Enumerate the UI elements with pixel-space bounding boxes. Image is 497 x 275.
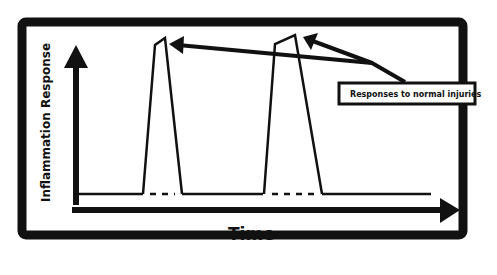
diagram-canvas: Inflammation Response Time Responses to … (0, 0, 497, 275)
response-curve (78, 35, 431, 194)
callout-label: Responses to normal injuries (350, 90, 481, 99)
callout-arrows (178, 40, 405, 82)
y-axis-arrowhead-icon (64, 45, 88, 68)
arrowhead-spike-1-icon (169, 36, 184, 54)
frame-border (22, 22, 463, 235)
x-axis-arrowhead-icon (440, 198, 460, 223)
spike-1 (143, 38, 182, 194)
x-axis-label: Time (228, 224, 275, 244)
y-axis-label: Inflammation Response (39, 43, 53, 202)
